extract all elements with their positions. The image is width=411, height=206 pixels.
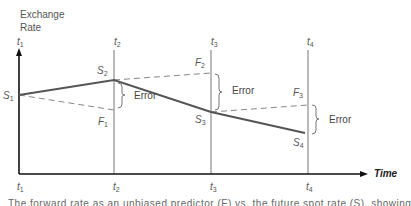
error-label-1: Error xyxy=(134,91,156,101)
error-brace-2 xyxy=(215,74,222,110)
error-label-3: Error xyxy=(329,115,351,125)
forward-rate-diagram: Exchange Rate t1 t2 t3 t4 t1 t2 t3 t4 Ti… xyxy=(0,0,411,206)
y-axis-label: Exchange Rate xyxy=(20,8,64,34)
x-axis-arrow-icon xyxy=(360,171,368,177)
forward-line-2 xyxy=(114,73,211,80)
x-axis-label: Time xyxy=(374,169,397,179)
error-label-2: Error xyxy=(232,86,254,96)
bottom-label-t4: t4 xyxy=(306,182,313,193)
label-s3: S3 xyxy=(195,115,206,126)
bottom-label-t2: t2 xyxy=(113,182,120,193)
top-label-t1: t1 xyxy=(17,37,24,48)
top-label-t4: t4 xyxy=(307,37,314,48)
y-axis-label-line1: Exchange xyxy=(20,8,64,21)
spot-rate-line xyxy=(19,80,305,133)
top-label-t3: t3 xyxy=(211,37,218,48)
forward-line-1 xyxy=(19,95,114,110)
figure-caption: The forward rate as an unbiased predicto… xyxy=(8,198,411,206)
bottom-label-t3: t3 xyxy=(210,182,217,193)
y-axis-label-line2: Rate xyxy=(20,21,64,34)
top-label-t2: t2 xyxy=(114,37,121,48)
error-brace-3 xyxy=(312,105,319,134)
label-f3: F3 xyxy=(293,88,303,99)
y-axis-arrow-icon xyxy=(16,48,22,56)
label-f1: F1 xyxy=(98,117,108,128)
error-brace-1 xyxy=(118,83,125,108)
label-f2: F2 xyxy=(195,58,205,69)
label-s1: S1 xyxy=(3,91,14,102)
label-s2: S2 xyxy=(97,66,108,77)
forward-line-3 xyxy=(211,105,308,112)
bottom-label-t1: t1 xyxy=(17,182,24,193)
label-s4: S4 xyxy=(293,138,304,149)
